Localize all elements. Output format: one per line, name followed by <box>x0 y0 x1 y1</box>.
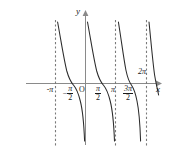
fraction-denominator: 2 <box>125 94 131 102</box>
tick-label-three-pi-over-2: 3π 2 <box>119 85 137 103</box>
tick-label-pi: π <box>108 86 118 94</box>
fraction-denominator: 2 <box>67 94 73 102</box>
tick-label-two-pi: 2π <box>134 68 150 76</box>
tick-label-minus-pi-over-2: − π 2 <box>58 85 78 103</box>
fraction-minus-pi-over-2: π 2 <box>67 85 73 103</box>
fraction-three-pi-over-2: 3π 2 <box>123 85 133 103</box>
tick-text-two-pi: 2π <box>138 67 146 76</box>
graph-canvas <box>0 0 170 160</box>
fraction-denominator: 2 <box>95 94 101 102</box>
y-axis-arrow <box>83 10 89 16</box>
curve-branch-zero-to-pi <box>88 22 115 141</box>
curve-group <box>58 22 159 141</box>
fraction-pi-over-2: π 2 <box>95 85 101 103</box>
origin-label: O <box>77 86 87 94</box>
y-axis-label: y <box>76 7 80 16</box>
curve-branch-pi-to-two-pi <box>118 22 140 141</box>
x-axis-label: x <box>156 85 160 94</box>
tick-text-minus-pi: -π <box>47 85 54 94</box>
tick-label-pi-over-2: π 2 <box>91 85 105 103</box>
curve-branch-minus-pi-to-zero <box>58 22 85 141</box>
tick-label-minus-pi: -π <box>42 86 58 94</box>
tick-text-pi: π <box>111 85 115 94</box>
math-graph-figure: y x O -π − π 2 π 2 π 3π 2 2π <box>0 0 170 160</box>
